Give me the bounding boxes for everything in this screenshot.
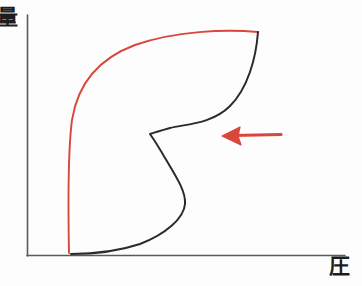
y-axis-label: 量 (0, 7, 18, 28)
arrow-shaft (233, 135, 281, 136)
figure-canvas: 量 圧 (0, 0, 362, 286)
adsorption-curve (68, 31, 258, 253)
x-axis-label: 圧 (329, 256, 350, 277)
direction-arrow (222, 127, 281, 145)
arrow-head-icon (222, 127, 241, 145)
plot-svg (0, 0, 362, 286)
